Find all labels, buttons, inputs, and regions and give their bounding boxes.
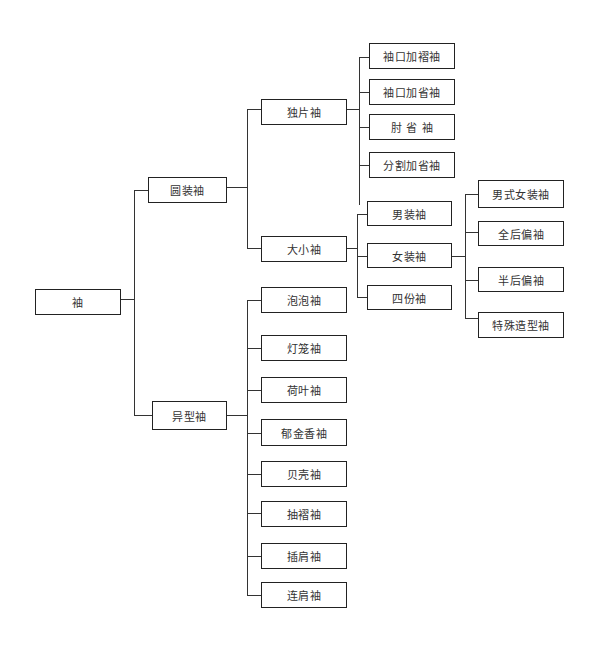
connector [134,190,148,191]
connector [247,300,248,595]
connector [359,92,369,93]
connector [357,256,367,257]
connector [465,232,478,233]
connector [227,415,247,416]
node-paopao: 泡泡袖 [261,287,347,313]
node-denglong: 灯笼袖 [261,335,347,361]
node-nanshi-nv: 男式女装袖 [478,180,564,208]
connector [227,187,247,188]
connector [247,513,261,514]
node-chajian: 插肩袖 [261,543,347,569]
connector [465,194,478,195]
connector [134,190,135,415]
node-daxiao: 大小袖 [261,236,347,262]
connector [247,248,261,249]
connector [347,109,359,110]
node-beike: 贝壳袖 [261,461,347,487]
connector [247,556,261,557]
node-banhou: 半后偏袖 [478,267,564,292]
connector [247,390,261,391]
connector [121,299,134,300]
connector [359,57,369,58]
node-xiukou-zhe: 袖口加褶袖 [369,43,455,69]
connector [247,474,261,475]
connector [247,348,261,349]
connector [247,109,261,110]
node-lianjian: 连肩袖 [261,582,347,608]
connector [247,595,261,596]
connector [247,109,248,248]
node-yuanzhuang: 圆装袖 [148,177,227,203]
connector [465,280,478,281]
node-nvzhuang: 女装袖 [367,243,452,268]
connector [134,415,152,416]
node-chouzhe: 抽褶袖 [261,501,347,527]
connector [359,127,369,128]
node-zhousheng: 肘 省 袖 [369,114,455,140]
connector [359,57,360,205]
connector [359,165,369,166]
node-nanzhuang: 男装袖 [367,201,452,226]
node-root: 袖 [35,289,121,315]
connector [357,214,367,215]
node-yujinxiang: 郁金香袖 [261,419,347,446]
connector [247,300,261,301]
connector [452,256,465,257]
node-fenge: 分割加省袖 [369,152,455,178]
connector [465,318,478,319]
node-dupian: 独片袖 [261,99,347,125]
node-teshu: 特殊造型袖 [478,312,564,338]
connector [465,194,466,318]
node-heye: 荷叶袖 [261,377,347,403]
connector [247,433,261,434]
connector [357,297,367,298]
node-xiukou-sheng: 袖口加省袖 [369,79,455,105]
node-quanhou: 全后偏袖 [478,221,564,246]
connector [347,248,357,249]
node-yixing: 异型袖 [152,401,227,430]
node-sifen: 四份袖 [367,285,452,310]
